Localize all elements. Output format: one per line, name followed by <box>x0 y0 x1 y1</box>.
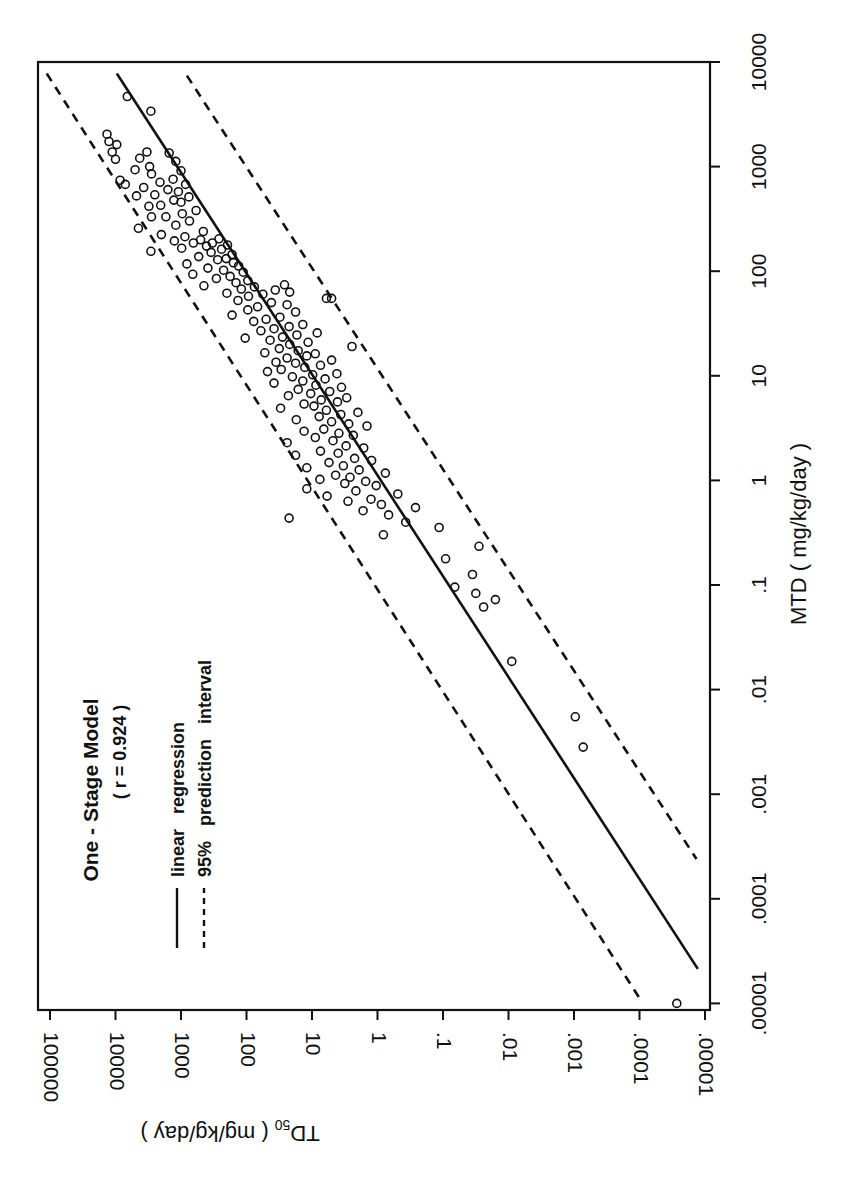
data-point <box>285 323 293 331</box>
x-tick-label: .00001 <box>747 971 770 1035</box>
data-point <box>204 264 212 272</box>
data-point <box>250 317 258 325</box>
prediction-lower-line <box>187 76 697 859</box>
data-point <box>315 413 323 421</box>
data-point <box>261 349 269 357</box>
data-point <box>328 294 336 302</box>
data-point <box>189 270 197 278</box>
scatter-chart: .00001.0001.001.01.1110100100010000 .000… <box>0 0 844 1182</box>
chart-title: One - Stage Model <box>79 698 102 881</box>
data-point <box>177 198 185 206</box>
data-point <box>245 292 253 300</box>
data-point <box>333 370 341 378</box>
data-point <box>359 507 367 515</box>
data-point <box>170 237 178 245</box>
data-point <box>334 449 342 457</box>
x-tick-label: 10000 <box>747 33 770 91</box>
data-point <box>317 361 325 369</box>
data-point <box>254 303 262 311</box>
data-point <box>292 359 300 367</box>
data-point <box>328 356 336 364</box>
data-point <box>363 422 371 430</box>
legend-label-prediction-interval: 95% prediction interval <box>195 660 215 877</box>
data-point <box>321 375 329 383</box>
data-point <box>285 514 293 522</box>
x-tick-label: .01 <box>747 675 770 704</box>
data-point <box>212 275 220 283</box>
data-point <box>157 231 165 239</box>
data-point <box>379 531 387 539</box>
data-point <box>475 542 483 550</box>
data-point <box>292 416 300 424</box>
data-point <box>267 299 275 307</box>
data-point <box>299 321 307 329</box>
data-point <box>277 404 285 412</box>
data-point <box>272 358 280 366</box>
data-point <box>283 354 291 362</box>
prediction-upper-line <box>47 74 640 999</box>
data-point <box>303 464 311 472</box>
data-point <box>244 306 252 314</box>
x-tick-label: 1000 <box>747 143 770 190</box>
x-tick-label: .1 <box>747 576 770 594</box>
data-point <box>329 437 337 445</box>
data-point <box>123 93 131 101</box>
y-tick-label: .00001 <box>695 1032 718 1096</box>
data-point <box>270 325 278 333</box>
data-point <box>294 385 302 393</box>
data-point <box>169 175 177 183</box>
data-point <box>228 311 236 319</box>
data-point <box>362 477 370 485</box>
y-tick-label: 1 <box>368 1032 391 1044</box>
data-points <box>103 93 681 1008</box>
data-point <box>207 248 215 256</box>
data-point <box>234 297 242 305</box>
data-point <box>266 336 274 344</box>
y-axis-title: TD50 ( mg/kg/day ) <box>140 1117 319 1146</box>
y-tick-label: .001 <box>564 1032 587 1073</box>
data-point <box>372 482 380 490</box>
data-point <box>181 233 189 241</box>
data-point <box>195 253 203 261</box>
data-point <box>192 207 200 215</box>
data-point <box>279 333 287 341</box>
data-point <box>303 485 311 493</box>
data-point <box>310 402 318 410</box>
data-point <box>341 480 349 488</box>
data-point <box>189 239 197 247</box>
data-point <box>270 379 278 387</box>
data-point <box>385 511 393 519</box>
data-point <box>178 244 186 252</box>
data-point <box>367 495 375 503</box>
data-point <box>286 288 294 296</box>
data-point <box>112 155 120 163</box>
data-point <box>151 191 159 199</box>
data-point <box>345 420 353 428</box>
data-point <box>304 338 312 346</box>
legend-label-regression: linear regression <box>168 722 188 877</box>
data-point <box>300 427 308 435</box>
data-point <box>303 352 311 360</box>
data-point <box>147 247 155 255</box>
y-tick-label: 10 <box>302 1032 325 1055</box>
data-point <box>113 141 121 149</box>
data-point <box>257 327 265 335</box>
data-point <box>322 406 330 414</box>
x-tick-label: .0001 <box>747 873 770 926</box>
data-point <box>292 308 300 316</box>
y-axis-ticks: .00001.0001.001.01.111010010001000010000… <box>40 1010 718 1102</box>
data-point <box>317 447 325 455</box>
legend: One - Stage Model ( r = 0.924 ) linear r… <box>79 660 215 948</box>
data-point <box>186 217 194 225</box>
data-point <box>313 329 321 337</box>
data-point <box>140 184 148 192</box>
data-point <box>381 469 389 477</box>
data-point <box>412 504 420 512</box>
data-point <box>241 334 249 342</box>
data-point <box>220 266 228 274</box>
data-point <box>673 999 681 1007</box>
chart-subtitle: ( r = 0.924 ) <box>110 705 130 800</box>
data-point <box>172 221 180 229</box>
fit-lines <box>47 74 698 999</box>
data-point <box>377 501 385 509</box>
